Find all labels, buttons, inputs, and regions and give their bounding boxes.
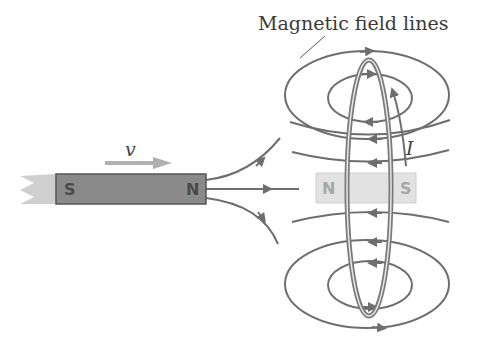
field-line-top-outer: [285, 51, 449, 139]
velocity-arrow: [105, 157, 172, 169]
motion-trail: [20, 174, 56, 204]
current-arrow: [393, 92, 406, 166]
field-line-upper-2: [292, 150, 449, 163]
moving-south-pole: S: [64, 180, 76, 199]
moving-magnet: S N: [20, 174, 206, 204]
field-line-magnet-top: [206, 138, 280, 180]
current-label: I: [405, 137, 414, 159]
diagram-canvas: Magnetic field lines N S: [0, 0, 477, 344]
field-line-magnet-bottom: [206, 198, 278, 244]
label-leader-line: [300, 36, 325, 58]
velocity-label: v: [125, 138, 136, 160]
induced-north-pole: N: [322, 179, 335, 198]
moving-north-pole: N: [186, 180, 199, 199]
induction-diagram: Magnetic field lines N S: [0, 0, 477, 344]
field-lines-label: Magnetic field lines: [258, 12, 448, 34]
induced-south-pole: S: [400, 179, 412, 198]
field-line-bottom-inner: [328, 261, 412, 309]
field-line-lower-1: [292, 212, 449, 222]
induced-magnet: N S: [316, 173, 416, 203]
